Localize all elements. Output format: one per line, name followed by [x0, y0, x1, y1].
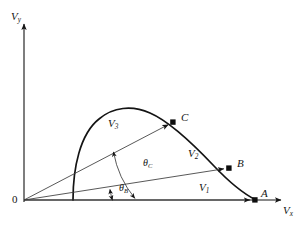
point-label-b: B — [237, 158, 244, 169]
point-label-c: C — [181, 112, 188, 123]
vector-v1-label: V1 — [199, 182, 209, 195]
point-label-a: A — [261, 188, 268, 199]
point-marker-b — [226, 165, 231, 170]
angle-label-theta-b: θB — [119, 183, 128, 194]
velocity-vector-figure: Vy Vx 0 V3 V2 V1 C B A θC θB — [0, 0, 302, 230]
point-marker-c — [170, 119, 175, 124]
origin-label: 0 — [12, 194, 18, 205]
vector-v3-label: V3 — [108, 118, 118, 131]
point-marker-a — [252, 197, 257, 202]
figure-canvas — [0, 0, 302, 230]
trajectory-curve — [73, 108, 256, 200]
y-axis-label: Vy — [11, 11, 21, 24]
x-axis-label: Vx — [283, 205, 293, 218]
vector-v2-label: V2 — [188, 148, 198, 161]
angle-label-theta-c: θC — [143, 158, 152, 169]
angle-theta-b-arc — [110, 190, 113, 201]
